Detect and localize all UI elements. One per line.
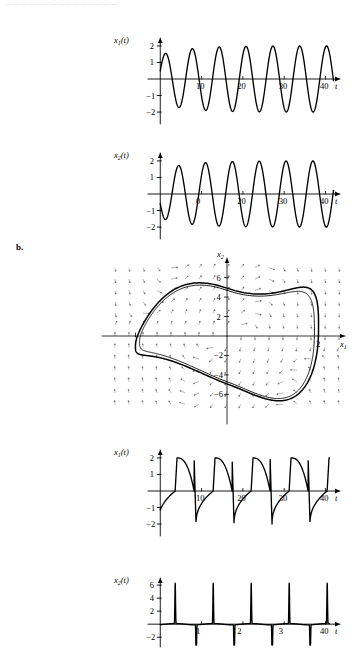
field-arrow-head (304, 358, 306, 360)
field-arrow-head (115, 270, 117, 272)
field-arrow-head (199, 321, 201, 323)
field-arrow-head (324, 316, 326, 318)
field-arrow-head (209, 372, 211, 374)
field-arrow-head (176, 277, 178, 279)
field-arrow-head (207, 348, 209, 350)
field-arrow-head (224, 349, 226, 351)
field-arrow-head (259, 288, 261, 290)
y-tick-label: −2 (146, 107, 155, 117)
field-arrow-head (323, 350, 325, 352)
field-arrow-head (284, 270, 286, 272)
field-arrow-head (159, 281, 161, 283)
field-arrow (277, 393, 283, 394)
field-arrow-head (266, 384, 268, 386)
y-tick-label: 6 (217, 273, 221, 283)
field-arrow-head (295, 350, 297, 352)
field-arrow-head (311, 270, 313, 272)
running-header: — — — — — — — — — — — — — — — (6, 1, 254, 8)
field-arrow-head (337, 355, 339, 357)
field-arrow-head (228, 309, 230, 311)
field-arrow-head (338, 270, 340, 272)
field-arrow-head (143, 270, 145, 272)
plot-b-phase: x2x1642−2−4−62 (98, 256, 354, 436)
field-arrow-head (193, 382, 195, 384)
field-arrow-head (129, 270, 131, 272)
field-arrow-head (155, 366, 157, 368)
field-arrow-head (168, 400, 170, 402)
axis-series-label: x1(t) (113, 447, 129, 458)
x-tick-label: 40 (320, 493, 329, 503)
field-arrow-head (280, 361, 282, 363)
field-arrow-head (293, 389, 295, 391)
field-arrow-head (224, 406, 226, 408)
field-arrow-head (297, 327, 299, 329)
t-axis-label: t (335, 81, 338, 91)
field-arrow-head (228, 264, 230, 266)
field-arrow-head (268, 338, 270, 340)
field-arrow-head (297, 315, 299, 317)
field-arrow-head (180, 390, 182, 392)
field-arrow-head (142, 366, 144, 368)
field-arrow-head (200, 275, 202, 277)
x-tick-label: 20 (237, 196, 246, 206)
field-arrow-head (297, 304, 299, 306)
svg-text:x1(t): x1(t) (113, 447, 129, 458)
y-tick-label: −1 (146, 91, 155, 101)
field-arrow-head (142, 389, 144, 391)
field-arrow-head (240, 338, 242, 340)
field-arrow-head (224, 372, 226, 374)
field-arrow-head (114, 343, 116, 345)
field-arrow-head (142, 332, 144, 334)
field-arrow-head (193, 357, 195, 359)
field-arrow-head (243, 264, 245, 266)
field-arrow-head (311, 293, 313, 295)
field-arrow-head (170, 332, 172, 334)
x1-axis-arrow (340, 334, 345, 339)
field-arrow-head (310, 338, 312, 340)
field-arrow-head (184, 332, 186, 334)
field-arrow-head (282, 338, 284, 340)
field-arrow-head (271, 304, 273, 306)
y-tick-label: 1 (150, 172, 154, 182)
field-arrow-head (114, 355, 116, 357)
x-tick-label: 30 (279, 196, 288, 206)
field-arrow-head (239, 361, 241, 363)
field-arrow-head (252, 406, 254, 408)
axis-series-label: x2(t) (113, 575, 129, 586)
field-arrow-head (129, 293, 131, 295)
field-arrow-head (183, 343, 185, 345)
field-arrow-head (311, 281, 313, 283)
field-arrow-head (243, 275, 245, 277)
field-arrow-head (115, 281, 117, 283)
field-arrow-head (297, 293, 299, 295)
field-arrow-head (210, 395, 212, 397)
field-arrow-head (270, 315, 272, 317)
field-arrow-head (246, 323, 248, 325)
field-arrow-head (243, 287, 245, 289)
field-arrow-head (266, 372, 268, 374)
plot-b-x2: 12340t642−2x2(t) (110, 566, 360, 659)
field-arrow-head (338, 281, 340, 283)
field-arrow-head (157, 321, 159, 323)
field-arrow-head (228, 298, 230, 300)
field-arrow-head (128, 343, 130, 345)
field-arrow-head (173, 298, 175, 300)
field-arrow-head (168, 389, 170, 391)
field-arrow-head (324, 338, 326, 340)
y-tick-label: 2 (150, 606, 154, 616)
field-arrow-head (239, 372, 241, 374)
field-arrow-head (128, 400, 130, 402)
plot-b-x1: 10203040t21−1−2x1(t) (110, 438, 360, 550)
y-tick-label: 6 (150, 580, 154, 590)
field-arrow-head (194, 394, 196, 396)
field-arrow-head (338, 293, 340, 295)
field-arrow-head (142, 378, 144, 380)
field-arrow-head (238, 406, 240, 408)
field-arrow-head (325, 270, 327, 272)
value-axis-arrow (158, 38, 163, 43)
field-arrow-head (129, 281, 131, 283)
field-arrow-head (325, 281, 327, 283)
y-tick-label: −2 (146, 222, 155, 232)
y-tick-label: −2 (214, 350, 223, 360)
y-tick-label: −1 (146, 206, 155, 216)
